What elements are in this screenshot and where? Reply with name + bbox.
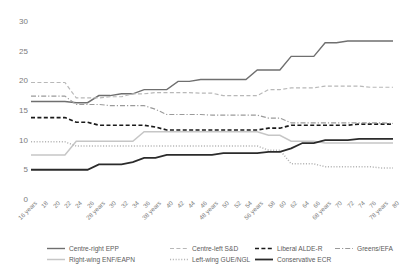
series-line xyxy=(31,83,393,98)
x-tick-label: 34 xyxy=(131,200,140,209)
age-vote-share-line-chart: 051015202530 16 years182022242628 years3… xyxy=(0,0,416,277)
legend-item[interactable]: Left-wing GUE/NGL xyxy=(170,256,250,263)
x-tick-label: 52 xyxy=(233,200,242,209)
x-tick-label: 74 xyxy=(357,200,366,209)
x-tick-label: 60 xyxy=(278,200,287,209)
legend-item[interactable]: Right-wing ENF/EAPN xyxy=(47,256,135,263)
x-tick-label: 72 xyxy=(346,200,355,209)
x-tick-label: 16 years xyxy=(17,200,38,221)
x-tick-label: 58 xyxy=(267,200,276,209)
series-line xyxy=(31,132,393,155)
x-axis-tick-labels: 16 years182022242628 years3032343638 yea… xyxy=(0,200,416,242)
legend-swatch-line-icon xyxy=(170,245,188,252)
legend-swatch-line-icon xyxy=(47,256,65,263)
x-tick-label: 42 xyxy=(176,200,185,209)
x-tick-label: 18 xyxy=(40,200,49,209)
legend-swatch-line-icon xyxy=(47,245,65,252)
legend-swatch-line-icon xyxy=(170,256,188,263)
legend-item[interactable]: Conservative ECR xyxy=(255,256,331,263)
series-line xyxy=(31,96,393,123)
legend-item[interactable]: Liberal ALDE-R xyxy=(255,245,322,252)
x-tick-label: 24 xyxy=(74,200,83,209)
legend-swatch-line-icon xyxy=(255,256,273,263)
x-tick-label: 44 xyxy=(188,200,197,209)
x-tick-label: 70 xyxy=(335,200,344,209)
x-tick-label: 20 xyxy=(52,200,61,209)
legend-label: Centre-left S&D xyxy=(192,245,238,252)
x-tick-label: 80 xyxy=(391,200,400,209)
chart-legend: Centre-right EPPRight-wing ENF/EAPNCentr… xyxy=(0,243,416,273)
legend-item[interactable]: Centre-left S&D xyxy=(170,245,238,252)
x-tick-label: 40 xyxy=(165,200,174,209)
legend-swatch-line-icon xyxy=(255,245,273,252)
legend-label: Right-wing ENF/EAPN xyxy=(69,256,135,263)
legend-label: Liberal ALDE-R xyxy=(277,245,322,252)
legend-label: Conservative ECR xyxy=(277,256,331,263)
x-tick-label: 32 xyxy=(120,200,129,209)
series-line xyxy=(31,118,393,130)
legend-label: Greens/EFA xyxy=(357,245,393,252)
legend-swatch-line-icon xyxy=(335,245,353,252)
x-tick-label: 30 xyxy=(108,200,117,209)
legend-item[interactable]: Centre-right EPP xyxy=(47,245,119,252)
legend-label: Left-wing GUE/NGL xyxy=(192,256,250,263)
x-tick-label: 22 xyxy=(63,200,72,209)
legend-item[interactable]: Greens/EFA xyxy=(335,245,393,252)
x-tick-label: 64 xyxy=(301,200,310,209)
legend-label: Centre-right EPP xyxy=(69,245,119,252)
x-tick-label: 50 xyxy=(221,200,230,209)
x-tick-label: 62 xyxy=(289,200,298,209)
